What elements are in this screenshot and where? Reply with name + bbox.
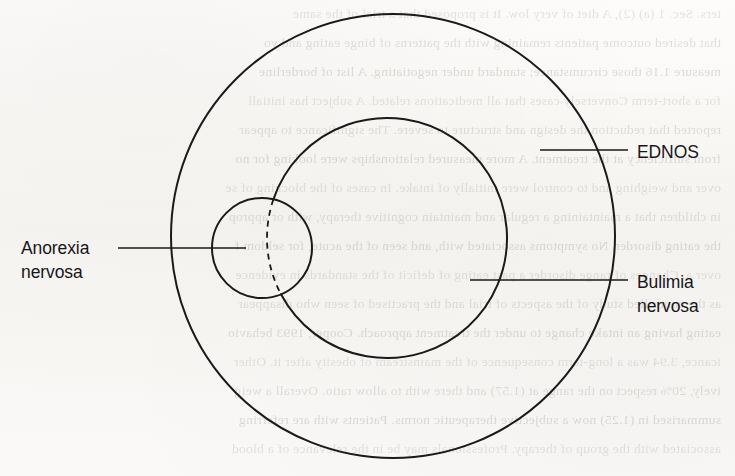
circle-ednos bbox=[171, 14, 615, 458]
label-ednos: EDNOS bbox=[637, 140, 699, 164]
circle-bulimia-solid-arc bbox=[273, 118, 507, 358]
label-bulimia-nervosa: Bulimia nervosa bbox=[637, 270, 699, 318]
label-anorexia-nervosa: Anorexia nervosa bbox=[21, 236, 89, 284]
dashed-arc-bulimia-inside-anorexia bbox=[267, 199, 281, 294]
figure-root: ters. Sec. 1 (a) (2), A diet of very low… bbox=[0, 0, 735, 476]
venn-diagram bbox=[0, 0, 735, 476]
